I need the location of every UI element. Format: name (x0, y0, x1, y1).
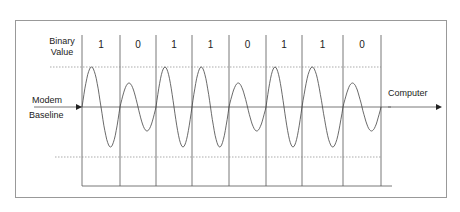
waveform-diagram (0, 0, 460, 212)
modem-arrow-icon (76, 104, 82, 110)
computer-arrow-icon (436, 104, 442, 110)
